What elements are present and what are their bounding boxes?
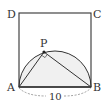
dimension-brace-right	[64, 88, 91, 96]
label-a: A	[6, 81, 16, 94]
label-b: B	[93, 81, 101, 94]
label-p: P	[40, 37, 48, 50]
label-c: C	[93, 8, 101, 21]
semicircle-region	[19, 51, 91, 87]
label-d: D	[7, 8, 16, 21]
label-ab-length: 10	[49, 91, 62, 102]
geometry-diagram: D C A B P 10	[0, 0, 107, 105]
dimension-brace-left	[19, 88, 46, 96]
point-p	[42, 50, 45, 53]
